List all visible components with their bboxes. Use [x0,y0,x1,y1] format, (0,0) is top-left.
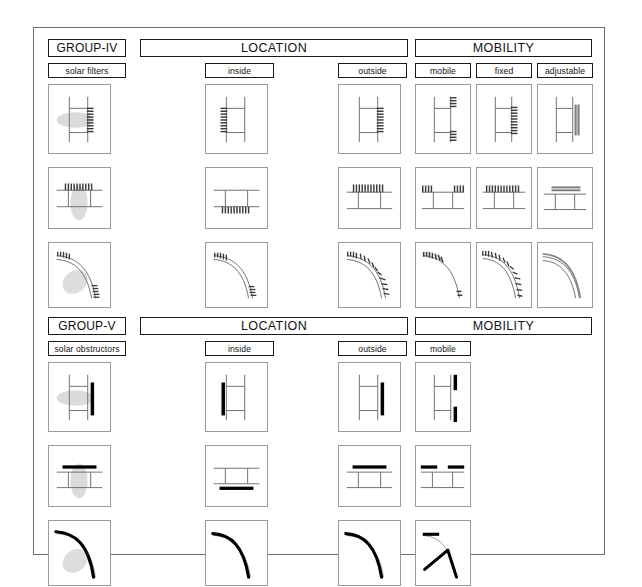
subject-label-solar-filters: solar filters [48,63,126,78]
column-label-inside-iv: inside [205,63,274,78]
column-label-inside-v: inside [205,341,274,356]
group-label-v: GROUP-V [48,317,126,335]
column-label-mobile-v: mobile [415,341,471,356]
cell-iv-adjustable-vertical [537,84,593,154]
cell-iv-mobile-curved [415,242,471,308]
cell-v-subject-curved [48,520,111,586]
cell-iv-inside-curved [205,242,268,308]
cell-v-inside-curved [205,520,268,586]
category-header-mobility-v: MOBILITY [415,317,592,335]
cell-iv-adjustable-curved [537,242,593,308]
cell-v-mobile-curved [415,520,471,586]
cell-iv-inside-horizontal [205,167,268,229]
cell-iv-outside-curved [338,242,401,308]
cell-iv-mobile-vertical [415,84,471,154]
column-label-adjustable-iv: adjustable [537,63,593,78]
cell-iv-fixed-vertical [476,84,532,154]
cell-v-outside-curved [338,520,401,586]
cell-iv-subject-horizontal [48,167,111,229]
cell-v-inside-vertical [205,362,268,432]
cell-v-subject-horizontal [48,445,111,507]
category-header-mobility-iv: MOBILITY [415,39,592,57]
group-label-iv: GROUP-IV [48,39,126,57]
cell-iv-inside-vertical [205,84,268,154]
cell-v-mobile-horizontal [415,445,471,507]
column-label-outside-v: outside [338,341,407,356]
subject-label-solar-obstructors: solar obstructors [48,341,126,356]
cell-iv-subject-vertical [48,84,111,154]
cell-iv-subject-curved [48,242,111,308]
cell-v-subject-vertical [48,362,111,432]
cell-v-outside-horizontal [338,445,401,507]
cell-iv-fixed-horizontal [476,167,532,229]
cell-iv-outside-horizontal [338,167,401,229]
category-header-location-iv: LOCATION [140,39,408,57]
cell-v-mobile-vertical [415,362,471,432]
diagram-sheet: GROUP-IV LOCATION MOBILITY solar filters… [33,27,605,555]
column-label-fixed-iv: fixed [476,63,532,78]
column-label-mobile-iv: mobile [415,63,471,78]
cell-v-outside-vertical [338,362,401,432]
column-label-outside-iv: outside [338,63,407,78]
cell-iv-fixed-curved [476,242,532,308]
cell-iv-adjustable-horizontal [537,167,593,229]
cell-iv-mobile-horizontal [415,167,471,229]
cell-iv-outside-vertical [338,84,401,154]
category-header-location-v: LOCATION [140,317,408,335]
cell-v-inside-horizontal [205,445,268,507]
